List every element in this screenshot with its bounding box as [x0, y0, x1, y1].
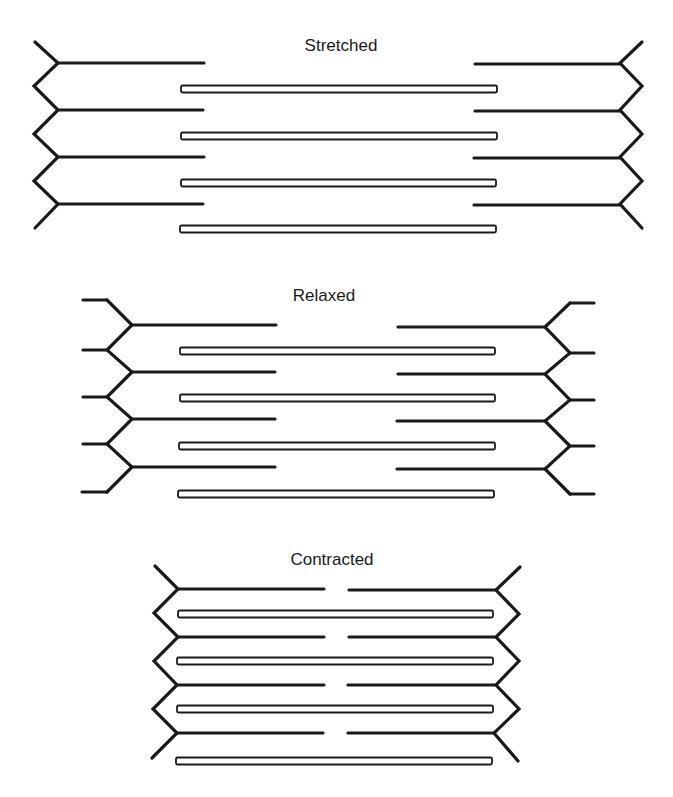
label-stretched: Stretched [305, 36, 378, 56]
z-line-left [34, 42, 58, 228]
thick-filament [179, 443, 495, 450]
thick-filament [177, 658, 493, 665]
panel-relaxed [82, 300, 594, 498]
thick-filament [181, 180, 496, 187]
z-line-right [494, 567, 520, 761]
label-contracted: Contracted [290, 550, 373, 570]
z-line-right [545, 303, 570, 494]
z-line-left [107, 300, 132, 492]
thick-filament [178, 611, 493, 618]
panel-contracted [152, 566, 520, 765]
z-line-left [152, 566, 178, 758]
thick-filament [181, 86, 497, 93]
thick-filament [177, 706, 493, 713]
thick-filament [181, 133, 497, 140]
sarcomere-diagram [0, 0, 673, 797]
thick-filament [176, 758, 492, 765]
thick-filament [180, 395, 495, 402]
thick-filament [180, 348, 495, 355]
panel-stretched [34, 42, 642, 233]
thick-filament [180, 226, 496, 233]
thick-filament [178, 491, 494, 498]
label-relaxed: Relaxed [293, 286, 355, 306]
z-line-right [620, 42, 642, 228]
